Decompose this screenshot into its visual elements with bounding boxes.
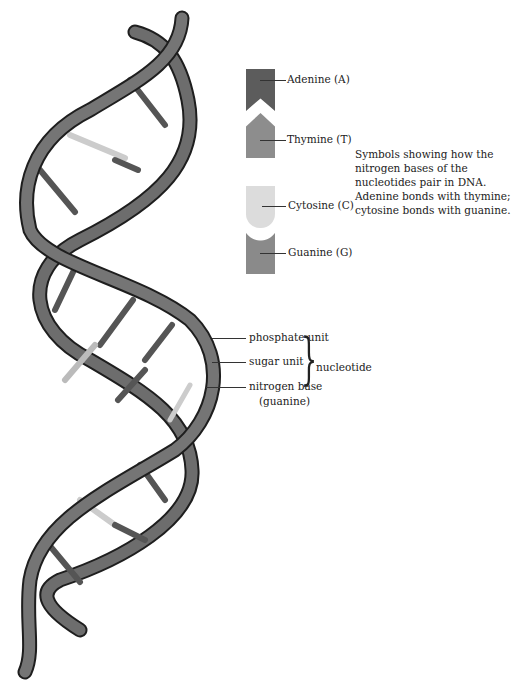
guanine-leader — [260, 253, 286, 254]
sugar-leader — [212, 362, 246, 363]
adenine-label: Adenine (A) — [287, 73, 350, 85]
thymine-leader — [260, 140, 286, 141]
phosphate-leader — [212, 338, 246, 339]
guanine-label: Guanine (G) — [288, 246, 352, 258]
curly-brace: } — [301, 331, 317, 387]
cytosine-symbol — [246, 186, 275, 228]
cytosine-leader — [262, 206, 286, 207]
legend-description: Symbols showing how the nitrogen bases o… — [355, 147, 524, 217]
cytosine-label: Cytosine (C) — [288, 199, 354, 211]
thymine-label: Thymine (T) — [287, 133, 352, 145]
adenine-leader — [260, 80, 286, 81]
sugar-unit-label: sugar unit — [249, 355, 304, 367]
nitrogen-base-leader — [206, 387, 246, 388]
guanine-note-label: (guanine) — [259, 395, 310, 407]
nucleotide-label: nucleotide — [316, 361, 372, 373]
